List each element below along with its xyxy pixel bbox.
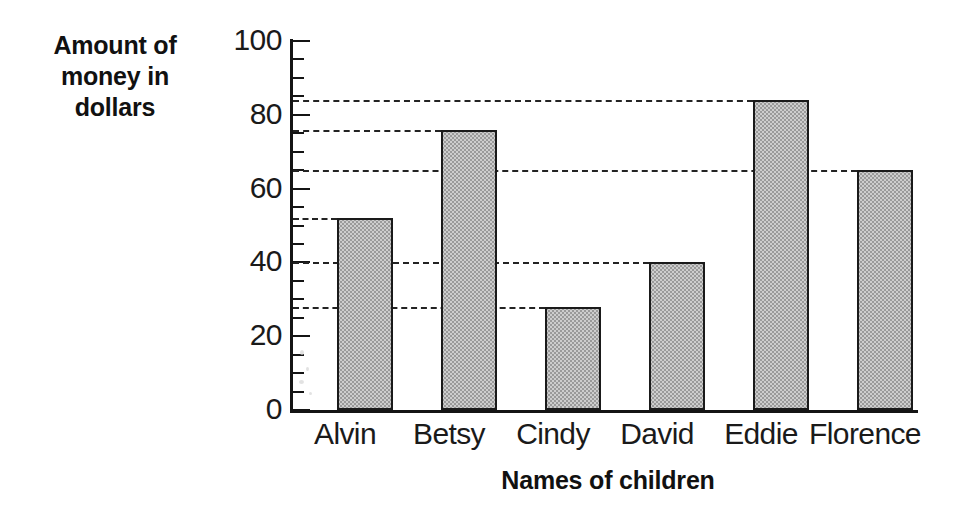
bar-florence [857, 170, 913, 410]
y-axis-major-tick [293, 40, 310, 42]
y-axis-tick-label: 0 [212, 394, 282, 424]
bar-eddie [753, 100, 809, 410]
leader-line [293, 100, 753, 102]
x-axis-label-cindy: Cindy [493, 417, 613, 451]
y-axis-minor-tick [293, 225, 304, 227]
x-axis-label-florence: Florence [805, 417, 925, 451]
y-axis-minor-tick [293, 206, 304, 208]
x-axis-title: Names of children [293, 466, 923, 495]
y-axis-minor-tick [293, 317, 304, 319]
x-axis-label-david: David [597, 417, 717, 451]
y-axis-tick-label-text: 100 [212, 25, 282, 55]
y-axis-minor-tick [293, 151, 304, 153]
page-speckle [299, 380, 304, 384]
y-axis-tick-label-text: 60 [212, 173, 282, 203]
x-axis-label-alvin: Alvin [285, 417, 405, 451]
y-axis-major-tick [293, 335, 310, 337]
y-axis-tick-label-text: 0 [212, 394, 282, 424]
bar-betsy [441, 130, 497, 410]
bar-david [649, 262, 705, 410]
y-axis-tick-label: 40 [212, 246, 282, 276]
y-axis-major-tick [293, 114, 310, 116]
bar-alvin [337, 218, 393, 410]
y-axis-major-tick [293, 409, 310, 411]
y-axis-tick-label: 20 [212, 320, 282, 350]
bar-cindy [545, 307, 601, 410]
y-axis-tick-label-text: 40 [212, 246, 282, 276]
y-axis-tick-label: 100 [212, 25, 282, 55]
y-axis-tick-label-text: 20 [212, 320, 282, 350]
y-axis-minor-tick [293, 298, 304, 300]
y-axis-minor-tick [293, 95, 304, 97]
x-axis-label-eddie: Eddie [701, 417, 821, 451]
y-axis-tick-label: 80 [212, 99, 282, 129]
x-axis-label-betsy: Betsy [389, 417, 509, 451]
y-axis-minor-tick [293, 391, 304, 393]
y-axis-minor-tick [293, 280, 304, 282]
y-axis-minor-tick [293, 77, 304, 79]
x-axis-line [290, 410, 918, 413]
y-axis-minor-tick [293, 243, 304, 245]
y-axis-minor-tick [293, 372, 304, 374]
page-speckle [306, 367, 309, 371]
y-axis-tick-label-text: 80 [212, 99, 282, 129]
leader-line [293, 130, 441, 132]
y-axis-minor-tick [293, 132, 304, 134]
page-speckle [300, 350, 304, 355]
leader-line [293, 218, 337, 220]
plot-area: 020406080100 AlvinBetsyCindyDavidEddieFl… [0, 0, 954, 528]
y-axis-major-tick [293, 188, 310, 190]
y-axis-minor-tick [293, 58, 304, 60]
page-speckle [309, 392, 312, 395]
bar-chart: Amount of money in dollars 020406080100 … [0, 0, 954, 528]
y-axis-tick-label: 60 [212, 173, 282, 203]
leader-line [293, 307, 545, 309]
